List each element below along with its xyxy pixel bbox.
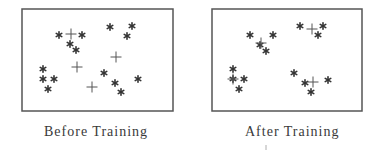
asterisk-icon [297,23,303,29]
asterisk-icon [325,77,331,83]
asterisk-icon [315,32,321,38]
plus-icon [308,77,319,88]
asterisk-icon [129,23,135,29]
asterisk-icon [247,32,253,38]
asterisk-icon [73,47,79,53]
plus-icon [72,62,83,73]
asterisk-icon [40,66,46,72]
asterisk-icon [320,23,326,29]
asterisk-icon [308,89,314,95]
plus-icon [228,74,239,85]
after-training-caption: After Training [245,124,340,140]
asterisk-icon [263,48,269,54]
after-training-panel [212,9,362,111]
asterisk-icon [241,76,247,82]
asterisk-icon [51,76,57,82]
before-training-panel [22,9,173,111]
asterisk-icon [79,32,85,38]
asterisk-icon [118,89,124,95]
asterisk-icon [45,86,51,92]
asterisk-icon [270,32,276,38]
asterisk-icon [230,66,236,72]
asterisk-icon [56,32,62,38]
asterisk-icon [67,41,73,47]
asterisk-icon [135,76,141,82]
asterisk-icon [40,76,46,82]
asterisk-icon [124,33,130,39]
asterisk-icon [236,86,242,92]
panel-frame [22,9,173,111]
asterisk-icon [101,70,107,76]
plus-icon [87,82,98,93]
asterisk-icon [107,24,113,30]
panel-frame [212,9,362,111]
asterisk-icon [302,80,308,86]
before-training-caption: Before Training [44,124,148,140]
asterisk-icon [291,70,297,76]
plus-icon [111,52,122,63]
plus-icon [66,29,77,40]
asterisk-icon [112,80,118,86]
